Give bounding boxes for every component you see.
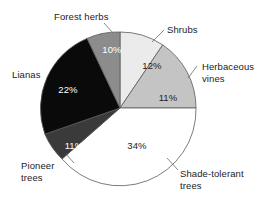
pie-label-forest-herbs: Forest herbs — [54, 11, 109, 23]
pie-label-shrubs: Shrubs — [167, 24, 198, 36]
pie-label-lianas: Lianas — [12, 69, 41, 81]
pie-label-shade-tolerant-trees: Shade-tolerant trees — [180, 168, 244, 191]
leader-line-forest-herbs — [104, 23, 113, 33]
pie-label-pioneer-trees: Pioneer trees — [21, 160, 54, 183]
pie-slices — [40, 32, 196, 186]
pie-label-herbaceous-vines: Herbaceous vines — [202, 61, 254, 84]
leader-line-shrubs — [152, 30, 164, 42]
pie-chart: 12% 11% 34% 11% 22% 10% Forest herbs Shr… — [0, 0, 260, 203]
leader-line-herbaceous-vines — [188, 66, 197, 78]
